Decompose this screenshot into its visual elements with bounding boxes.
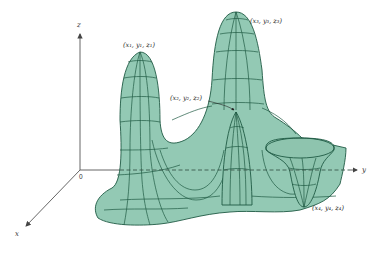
x-axis (26, 170, 80, 226)
z-axis-label: z (76, 21, 81, 29)
surface-diagram: z y x 0 (x₁, y₁, z₁) (x₃, y₃, z₃) (x₂, y… (0, 0, 380, 255)
point-label-3: (x₃, y₃, z₃) (250, 17, 282, 25)
point-label-1: (x₁, y₁, z₁) (123, 41, 155, 49)
point-label-4: (x₄, y₄, z₄) (312, 204, 344, 212)
point-label-2: (x₂, y₂, z₂) (170, 94, 202, 102)
x-axis-label: x (15, 230, 19, 238)
y-axis-label: y (361, 166, 367, 174)
origin-label: 0 (79, 173, 83, 180)
